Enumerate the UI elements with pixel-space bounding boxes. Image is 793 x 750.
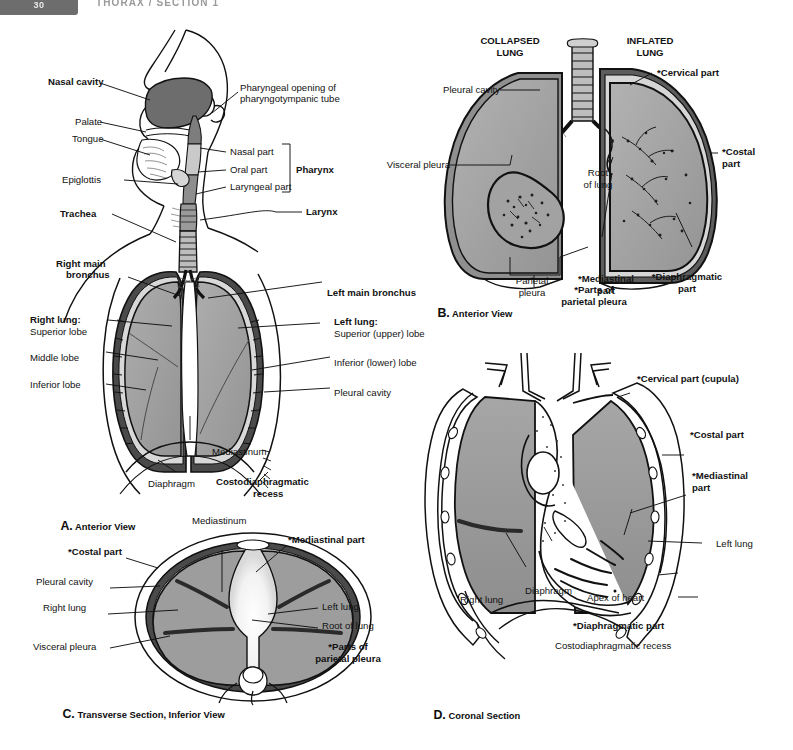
label-apex-of-heart: Apex of heart [587, 592, 644, 603]
label-epiglottis: Epiglottis [62, 174, 101, 185]
label-palate: Palate [75, 116, 102, 127]
label-left-lung-head: Left lung: [334, 316, 378, 327]
label-root-of-lung-b-1: Root [578, 167, 618, 178]
label-larynx: Larynx [306, 206, 337, 217]
label-superior-upper-lobe: Superior (upper) lobe [334, 328, 425, 339]
label-mediastinal-part-d-1: *Mediastinal [692, 470, 748, 481]
label-mediastinal-part-d-2: part [692, 482, 710, 493]
panel-b-caption: B. Anterior View [427, 295, 512, 331]
label-pharyngeal-opening-2: pharyngotympanic tube [240, 93, 340, 104]
label-parts-of-parietal-b-2: parietal pleura [546, 296, 642, 307]
label-diaphragmatic-part-b-2: part [640, 283, 734, 294]
label-diaphragm-d: Diaphragm [525, 585, 572, 596]
label-right-lung-head: Right lung: [30, 314, 81, 325]
label-inflated-1: INFLATED [600, 35, 700, 46]
panel-b-caption-text: Anterior View [450, 308, 513, 319]
label-costodiaphragmatic-1: Costodiaphragmatic [216, 476, 309, 487]
label-parts-of-parietal-c-2: parietal pleura [302, 653, 394, 664]
label-left-lung-d: Left lung [716, 538, 753, 549]
label-collapsed-1: COLLAPSED [460, 35, 560, 46]
label-inflated-2: LUNG [600, 47, 700, 58]
label-middle-lobe: Middle lobe [30, 352, 79, 363]
label-visceral-pleura-b: Visceral pleura [386, 159, 450, 170]
label-pharynx: Pharynx [296, 164, 334, 175]
page-number: 30 [0, 0, 78, 15]
label-pleural-cavity-b: Pleural cavity [443, 84, 500, 95]
running-head-title: THORAX / SECTION 1 [96, 0, 219, 8]
label-pleural-cavity-a: Pleural cavity [334, 387, 391, 398]
label-diaphragm-a: Diaphragm [148, 478, 195, 489]
label-diaphragmatic-part-b-1: *Diaphragmatic [640, 271, 734, 282]
panel-d-caption: D. Coronal Section [423, 697, 520, 733]
panel-d-letter: D. [433, 708, 445, 722]
label-root-of-lung-b-2: of lung [571, 179, 625, 190]
label-diaphragmatic-part-d: *Diaphragmatic part [573, 620, 664, 631]
label-visceral-pleura-c: Visceral pleura [33, 641, 96, 652]
label-pharyngeal-opening-1: Pharyngeal opening of [240, 82, 336, 93]
panel-b-letter: B. [437, 306, 449, 320]
panel-d-caption-text: Coronal Section [446, 710, 521, 721]
label-parts-of-parietal-b-1: *Parts of [546, 284, 642, 295]
label-cervical-part-b: *Cervical part [657, 67, 719, 78]
label-cervical-part-d: *Cervical part (cupula) [637, 373, 739, 384]
label-costo-recess-d: Costodiaphragmatic recess [555, 640, 671, 651]
label-nasal-cavity: Nasal cavity [48, 76, 103, 87]
label-oral-part: Oral part [230, 164, 267, 175]
label-right-main-bronchus-1: Right main [56, 258, 106, 269]
label-inferior-lobe: Inferior lobe [30, 379, 81, 390]
label-parts-of-parietal-c-1: *Parts of [302, 641, 394, 652]
label-costal-part-b-2: part [722, 158, 740, 169]
label-pleural-cavity-c: Pleural cavity [36, 576, 93, 587]
panel-d-leaders [400, 345, 793, 685]
label-costal-part-d: *Costal part [690, 429, 744, 440]
label-mediastinum-c: Mediastinum [192, 515, 246, 526]
label-mediastinum-a: Mediastinum [212, 446, 266, 457]
figure-page: 30 THORAX / SECTION 1 [0, 0, 793, 750]
panel-c-letter: C. [62, 707, 74, 721]
panel-a-leaders [0, 20, 400, 540]
label-costal-part-b-1: *Costal [722, 146, 755, 157]
label-right-lung-d: Right lung [460, 594, 503, 605]
label-tongue: Tongue [72, 133, 103, 144]
label-collapsed-2: LUNG [460, 47, 560, 58]
label-superior-lobe: Superior lobe [30, 326, 87, 337]
label-root-of-lung-c: Root of lung [322, 620, 374, 631]
panel-c-caption-text: Transverse Section, Inferior View [75, 709, 225, 720]
label-left-lung-c: Left lung [322, 601, 359, 612]
label-right-lung-c: Right lung [43, 602, 86, 613]
page-number-tab: 30 [0, 0, 78, 15]
label-nasal-part: Nasal part [230, 146, 274, 157]
label-mediastinal-part-b-1: *Mediastinal [566, 273, 646, 284]
label-trachea: Trachea [60, 208, 96, 219]
label-right-main-bronchus-2: bronchus [66, 269, 110, 280]
label-costal-part-c: *Costal part [68, 546, 122, 557]
panel-c-caption: C. Transverse Section, Inferior View [52, 696, 225, 732]
label-costodiaphragmatic-2: recess [253, 488, 283, 499]
label-laryngeal-part: Laryngeal part [230, 181, 291, 192]
label-mediastinal-part-c: *Mediastinal part [288, 534, 365, 545]
